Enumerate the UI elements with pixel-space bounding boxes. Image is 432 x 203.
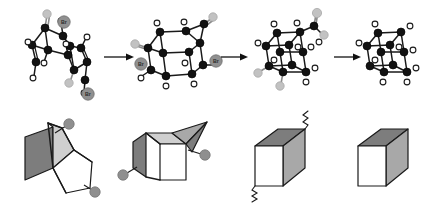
hydrogen-atom xyxy=(316,39,322,45)
bromine-atom xyxy=(58,16,70,28)
carbon-atom xyxy=(196,39,204,47)
carbon-atom xyxy=(302,68,310,76)
hydrogen-atom xyxy=(182,60,188,66)
hydrogen-atom xyxy=(271,57,277,63)
carbon-atom xyxy=(363,42,371,50)
carbon-atom xyxy=(273,29,281,37)
figure-root: Br Br xyxy=(0,0,432,203)
carbon-atom xyxy=(81,76,89,84)
carbon-atom xyxy=(162,72,170,80)
carbon-atom xyxy=(265,62,273,70)
bromine-substituent: Br xyxy=(58,16,70,28)
carbon-atom xyxy=(32,58,40,66)
cube-face-front xyxy=(358,146,386,186)
cube-face-front xyxy=(255,146,283,186)
bromine-atom xyxy=(210,55,222,67)
bromine-atom xyxy=(82,88,94,100)
gray-atom xyxy=(65,79,73,87)
hydrogen-atom xyxy=(407,23,413,29)
hydrogen-atom xyxy=(41,60,47,66)
gray-atom xyxy=(276,82,284,90)
hydrogen-atom xyxy=(303,79,309,85)
gray-atom xyxy=(254,69,262,77)
carbon-atom xyxy=(59,32,67,40)
hydrogen-atom xyxy=(413,65,419,71)
hydrogen-atom xyxy=(372,21,378,27)
carbon-atom xyxy=(182,27,190,35)
hydrogen-atom xyxy=(294,20,300,26)
hydrogen-atom xyxy=(312,65,318,71)
carbon-atom xyxy=(288,61,296,69)
gray-atom xyxy=(209,13,217,21)
carbon-atom xyxy=(156,28,164,36)
gray-atom xyxy=(320,31,328,39)
hydrogen-atom xyxy=(396,44,402,50)
knob-circle xyxy=(200,150,210,160)
carbon-atom xyxy=(77,44,85,52)
hydrogen-atom xyxy=(191,81,197,87)
gray-atom xyxy=(131,40,139,48)
hydrogen-atom xyxy=(181,19,187,25)
knob-circle xyxy=(118,170,128,180)
carbon-atom xyxy=(296,28,304,36)
bromine-substituent: Br xyxy=(82,88,94,100)
carbon-atom xyxy=(144,44,152,52)
carbon-atom xyxy=(386,41,394,49)
hydrogen-atom xyxy=(308,44,314,50)
carbon-atom xyxy=(397,28,405,36)
gray-atom xyxy=(43,10,51,18)
carbon-atom xyxy=(377,48,385,56)
hydrogen-atom xyxy=(163,83,169,89)
hydrogen-atom xyxy=(25,39,31,45)
carbon-atom xyxy=(403,68,411,76)
carbon-atom xyxy=(83,58,91,66)
carbon-atom xyxy=(310,22,318,30)
carbon-atom xyxy=(374,29,382,37)
hydrogen-atom xyxy=(372,57,378,63)
bromine-atom xyxy=(135,58,147,70)
hydrogen-atom xyxy=(63,41,69,47)
carbon-atom xyxy=(147,66,155,74)
hydrogen-atom xyxy=(380,79,386,85)
carbon-atom xyxy=(285,41,293,49)
carbon-atom xyxy=(70,66,78,74)
bromine-substituent: Br xyxy=(210,55,222,67)
knob-circle xyxy=(64,119,74,129)
bromine-substituent: Br xyxy=(135,58,147,70)
hydrogen-atom xyxy=(84,34,90,40)
carbon-atom xyxy=(262,42,270,50)
fold-face-white xyxy=(160,144,186,180)
hydrogen-atom xyxy=(154,20,160,26)
carbon-atom xyxy=(276,48,284,56)
carbon-atom xyxy=(44,46,52,54)
hydrogen-atom xyxy=(295,44,301,50)
carbon-atom xyxy=(64,51,72,59)
carbon-atom xyxy=(380,68,388,76)
carbon-atom xyxy=(389,61,397,69)
carbon-atom xyxy=(41,24,49,32)
carbon-atom xyxy=(279,68,287,76)
carbon-atom xyxy=(199,61,207,69)
hydrogen-atom xyxy=(271,21,277,27)
hydrogen-atom xyxy=(404,79,410,85)
hydrogen-atom xyxy=(356,40,362,46)
knob-circle xyxy=(90,187,100,197)
hydrogen-atom xyxy=(138,75,144,81)
hydrogen-atom xyxy=(255,40,261,46)
synthesis-scheme-figure: Br Br xyxy=(0,0,432,203)
hydrogen-atom xyxy=(410,47,416,53)
gray-atom xyxy=(312,8,321,17)
carbon-atom xyxy=(188,70,196,78)
carbon-atom xyxy=(185,48,193,56)
carbon-atom xyxy=(200,20,208,28)
hydrogen-atom xyxy=(30,75,36,81)
carbon-atom xyxy=(366,62,374,70)
carbon-atom xyxy=(159,49,167,57)
